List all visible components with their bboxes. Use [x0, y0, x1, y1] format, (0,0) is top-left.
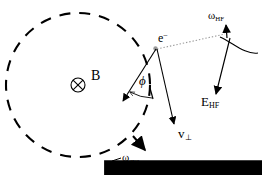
omega-hf-label: ωHF	[208, 10, 224, 23]
e-field-hf-label: EHF	[201, 95, 219, 110]
phase-angle-label: ϕ	[139, 74, 146, 87]
omega-cyc-leader-tick	[112, 158, 121, 161]
cyclotron-motion-figure: e− B ϕ v⊥ ωHF EHF ωcyc	[0, 0, 262, 175]
magnetic-field-into-page-icon	[71, 78, 85, 92]
hf-rotation-arc	[220, 37, 258, 53]
perpendicular-velocity-label: v⊥	[178, 127, 192, 142]
omega-cyc-direction-arrow	[133, 136, 145, 150]
magnetic-field-label: B	[91, 69, 100, 83]
electron-label: e−	[158, 32, 168, 44]
e-hf-field-arrow	[216, 38, 230, 94]
velocity-ray-lower-right	[157, 49, 174, 124]
omega-hf-arrow	[226, 25, 227, 38]
omega-cyc-label: ωcyc	[122, 152, 139, 165]
diagram-canvas	[0, 0, 262, 175]
